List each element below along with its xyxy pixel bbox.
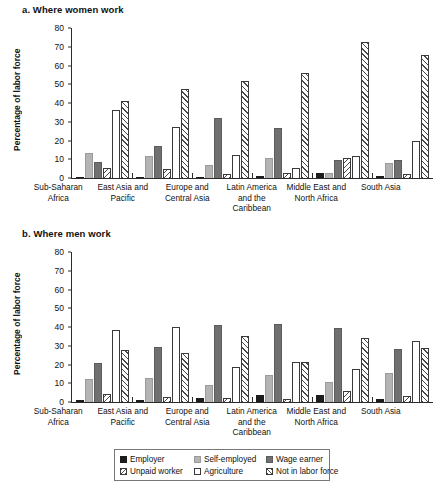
panel-b-title: b. Where men work: [22, 228, 111, 239]
bar-notinlabor: [361, 42, 369, 178]
bar-wageearner: [154, 146, 162, 178]
bar-agriculture: [352, 369, 360, 402]
legend-item-wageearner: Wage earner: [266, 455, 338, 464]
bar-selfemployed: [145, 156, 153, 178]
bar-selfemployed: [265, 375, 273, 402]
bar-employer: [316, 173, 324, 178]
y-tick-label: 20: [55, 136, 64, 146]
bar-employer: [376, 399, 384, 402]
panel-a-x-labels: Sub-Saharan AfricaEast Asia and PacificE…: [26, 180, 413, 214]
bar-notinlabor: [181, 353, 189, 402]
bar-group: [72, 252, 132, 402]
bar-agriculture: [112, 110, 120, 178]
x-axis-category-label: Middle East and North Africa: [284, 404, 349, 438]
bar-wageearner: [214, 118, 222, 178]
panel-b-y-axis-label: Percentage of labor force: [12, 264, 22, 384]
x-axis-category-label: East Asia and Pacific: [91, 180, 156, 214]
bar-wageearner: [94, 363, 102, 402]
y-tick-label: 50: [55, 79, 64, 89]
legend-item-unpaid: Unpaid worker: [120, 467, 194, 476]
bar-notinlabor: [301, 362, 309, 403]
bar-notinlabor: [241, 81, 249, 179]
bar-selfemployed: [205, 385, 213, 402]
panel-a-y-axis-label: Percentage of labor force: [12, 40, 22, 160]
legend-label: Self-employed: [204, 455, 256, 464]
legend-label: Wage earner: [276, 455, 323, 464]
y-tick-label: 60: [55, 61, 64, 71]
legend-item-selfemployed: Self-employed: [194, 455, 266, 464]
x-axis-category-label: South Asia: [349, 180, 414, 214]
legend-swatch-employer: [120, 456, 127, 463]
panel-b-plot: 01020304050607080: [46, 252, 433, 402]
legend-label: Not in labor force: [276, 467, 338, 476]
bar-selfemployed: [85, 153, 93, 178]
x-axis-category-label: Europe and Central Asia: [155, 180, 220, 214]
bar-employer: [136, 177, 144, 178]
bar-selfemployed: [205, 165, 213, 178]
bar-selfemployed: [385, 373, 393, 402]
x-axis-category-label: Sub-Saharan Africa: [26, 404, 91, 438]
y-tick-label: 30: [55, 341, 64, 351]
bar-unpaid: [283, 173, 291, 178]
bar-wageearner: [274, 324, 282, 402]
bar-wageearner: [154, 347, 162, 402]
x-axis-category-label: Europe and Central Asia: [155, 404, 220, 438]
bar-agriculture: [232, 367, 240, 402]
bar-selfemployed: [145, 378, 153, 402]
bar-selfemployed: [325, 173, 333, 178]
panel-a-title: a. Where women work: [22, 4, 124, 15]
x-axis-category-label: Sub-Saharan Africa: [26, 180, 91, 214]
bar-agriculture: [292, 168, 300, 178]
bar-wageearner: [214, 325, 222, 402]
x-axis-category-label: South Asia: [349, 404, 414, 438]
y-tick-label: 80: [55, 23, 64, 33]
legend-swatch-selfemployed: [194, 456, 201, 463]
bar-wageearner: [394, 160, 402, 178]
bar-selfemployed: [85, 379, 93, 402]
bar-selfemployed: [265, 158, 273, 178]
bar-selfemployed: [325, 382, 333, 402]
panel-a-bars: [72, 28, 433, 178]
bar-agriculture: [232, 155, 240, 178]
y-tick-label: 20: [55, 360, 64, 370]
panel-b-bars: [72, 252, 433, 402]
bar-employer: [76, 400, 84, 402]
bar-agriculture: [412, 141, 420, 178]
bar-unpaid: [343, 391, 351, 402]
y-tick-label: 10: [55, 378, 64, 388]
y-tick-label: 40: [55, 322, 64, 332]
bar-group: [373, 28, 433, 178]
y-tick-label: 40: [55, 98, 64, 108]
y-tick-label: 10: [55, 154, 64, 164]
bar-employer: [196, 177, 204, 179]
bar-group: [253, 252, 313, 402]
bar-employer: [316, 395, 324, 402]
bar-wageearner: [394, 349, 402, 402]
bar-wageearner: [334, 160, 342, 178]
bar-group: [373, 252, 433, 402]
bar-group: [313, 28, 373, 178]
bar-notinlabor: [241, 336, 249, 402]
legend-label: Unpaid worker: [130, 467, 183, 476]
legend-swatch-wageearner: [266, 456, 273, 463]
y-tick-label: 60: [55, 285, 64, 295]
bar-selfemployed: [385, 163, 393, 178]
bar-wageearner: [274, 128, 282, 178]
bar-employer: [256, 176, 264, 178]
bar-employer: [196, 398, 204, 402]
bar-group: [192, 252, 252, 402]
bar-notinlabor: [121, 101, 129, 178]
bar-notinlabor: [421, 348, 429, 402]
chart-legend: EmployerSelf-employedWage earnerUnpaid w…: [114, 449, 330, 481]
bar-group: [132, 252, 192, 402]
bar-agriculture: [172, 127, 180, 178]
legend-swatch-agriculture: [194, 468, 201, 475]
bar-group: [192, 28, 252, 178]
bar-unpaid: [403, 174, 411, 178]
bar-employer: [376, 176, 384, 178]
bar-unpaid: [283, 399, 291, 402]
bar-unpaid: [103, 168, 111, 178]
bar-agriculture: [292, 362, 300, 402]
bar-unpaid: [343, 158, 351, 178]
bar-unpaid: [163, 169, 171, 178]
